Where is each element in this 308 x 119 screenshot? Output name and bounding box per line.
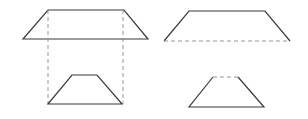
diagram-canvas — [0, 0, 308, 119]
right-large-trapezoid — [164, 11, 290, 41]
left-small-trapezoid — [48, 75, 122, 104]
right-small-trapezoid — [189, 77, 264, 107]
left-large-trapezoid — [23, 10, 148, 39]
